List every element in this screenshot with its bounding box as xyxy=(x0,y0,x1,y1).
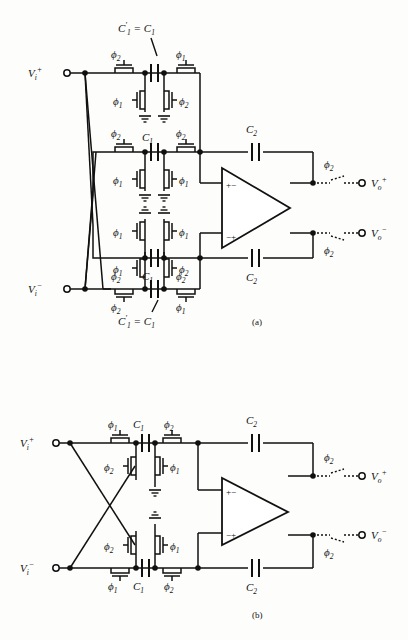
opamp-b[interactable]: +− −+ xyxy=(198,443,288,568)
label-phi1-shunt-right-s3a: ϕ1 xyxy=(179,226,188,241)
label-phi2-bot-right-sb2: ϕ2 xyxy=(164,580,174,595)
vi-plus-terminal-b[interactable] xyxy=(53,440,73,446)
label-phi2-top-left-s1a: ϕ2 xyxy=(111,48,121,63)
ground-right-s1a xyxy=(158,116,170,122)
label-phi2-top-left-s2a: ϕ2 xyxy=(111,127,121,142)
label-phi2-output-bottom-a: ϕ2 xyxy=(324,244,334,259)
ground-right-s3a xyxy=(158,207,170,213)
input-crosswires-b xyxy=(70,443,135,568)
label-phi2-output-top-b: ϕ2 xyxy=(324,451,334,466)
section-3-a: ϕ1 ϕ1 ϕ2 ϕ2 C1 xyxy=(111,0,235,285)
label-c2-top-a: C2 xyxy=(246,123,257,138)
opamp-a-input-bottom-label: −+ xyxy=(226,232,236,242)
vi-plus-label-a: Vi+ xyxy=(28,65,42,82)
annotation-c1prime-top-text-a: C′1 = C1 xyxy=(118,21,155,37)
label-c2-bottom-b: C2 xyxy=(246,581,257,596)
annotation-c1prime-bottom-a: C′1 = C1 xyxy=(118,300,158,330)
vi-minus-label-b: Vi− xyxy=(20,560,34,577)
label-phi1-shunt-left-s1a: ϕ1 xyxy=(113,95,122,110)
label-phi1-shunt-left-s2a: ϕ1 xyxy=(113,174,122,189)
output-vo-plus-b[interactable]: ϕ2 Vo+ xyxy=(313,451,387,485)
vi-plus-terminal-a[interactable] xyxy=(64,70,88,76)
switch-phi1-shunt-right-sb1[interactable] xyxy=(155,457,168,475)
vi-minus-terminal-b[interactable] xyxy=(53,565,73,571)
ground-left-s3a xyxy=(139,207,151,213)
switch-phi1-shunt-right-sb2[interactable] xyxy=(155,536,168,554)
feedback-c2-top-a: C2 xyxy=(235,123,316,186)
label-phi1-top-right-s1a: ϕ1 xyxy=(176,48,185,63)
output-vo-plus-a[interactable]: ϕ2 Vo+ xyxy=(313,158,387,192)
label-phi2-shunt-left-sb1: ϕ2 xyxy=(104,461,114,476)
figure-page: Vi+ Vi− xyxy=(0,0,408,640)
label-phi1-shunt-left-s3a: ϕ1 xyxy=(113,226,122,241)
opamp-a[interactable]: +− −+ xyxy=(200,152,290,258)
vo-minus-label-a: Vo− xyxy=(371,225,387,242)
switch-phi2-shunt-right-s1a[interactable] xyxy=(164,91,177,109)
vi-plus-label-b: Vi+ xyxy=(20,435,34,452)
switch-phi2-top-right-s2a[interactable] xyxy=(177,139,195,152)
label-phi2-output-top-a: ϕ2 xyxy=(324,158,334,173)
feedback-c2-bottom-b: C2 xyxy=(198,532,316,596)
switch-phi1-shunt-left-s3a[interactable] xyxy=(132,222,145,240)
output-vo-minus-b[interactable]: ϕ2 Vo− xyxy=(313,527,387,561)
circuit-b: Vi+ Vi− xyxy=(20,414,387,620)
label-c1-top-b: C1 xyxy=(133,418,144,433)
section-top-b: ϕ1 ϕ2 C1 ϕ2 ϕ1 xyxy=(104,418,201,496)
caption-b: (b) xyxy=(252,610,263,620)
section-bottom-b: ϕ1 ϕ2 C1 ϕ2 ϕ1 xyxy=(104,512,201,595)
label-phi1-shunt-right-sb2: ϕ1 xyxy=(170,540,179,555)
opamp-b-input-top-label: +− xyxy=(226,487,236,497)
label-c1-s2a: C1 xyxy=(142,131,153,146)
section-1-top-a: ϕ2 ϕ1 ϕ1 ϕ2 xyxy=(111,48,200,152)
label-phi1-bot-left-sb2: ϕ1 xyxy=(108,580,117,595)
circuit-figure: Vi+ Vi− xyxy=(0,0,408,640)
section-2-a: ϕ2 ϕ2 C1 ϕ1 ϕ1 xyxy=(111,127,235,201)
switch-phi2-shunt-left-sb1[interactable] xyxy=(123,457,136,475)
ground-left-s2a xyxy=(139,195,151,201)
switch-phi2-shunt-left-sb2[interactable] xyxy=(123,536,136,554)
label-c2-top-b: C2 xyxy=(246,414,257,429)
switch-phi1-shunt-right-s3a[interactable] xyxy=(164,222,177,240)
ground-right-s2a xyxy=(158,195,170,201)
annotation-c1prime-top-a: C′1 = C1 xyxy=(118,21,157,56)
label-phi1-shunt-right-s2a: ϕ1 xyxy=(179,174,188,189)
label-phi2-top-right-sb1: ϕ2 xyxy=(164,418,174,433)
feedback-c2-bottom-a: C2 xyxy=(235,230,316,286)
vo-minus-label-b: Vo− xyxy=(371,527,387,544)
label-phi2-output-bottom-b: ϕ2 xyxy=(324,546,334,561)
ground-left-s1a xyxy=(139,116,151,122)
opamp-b-input-bottom-label: −+ xyxy=(226,530,236,540)
label-phi1-bot-right-s4a: ϕ1 xyxy=(176,301,185,316)
output-vo-minus-a[interactable]: ϕ2 Vo− xyxy=(313,225,387,259)
feedback-c2-top-b: C2 xyxy=(198,414,316,479)
opamp-a-input-top-label: +− xyxy=(226,180,236,190)
vi-minus-terminal-a[interactable] xyxy=(64,286,88,292)
vo-plus-label-b: Vo+ xyxy=(371,468,387,485)
label-c2-bottom-a: C2 xyxy=(246,271,257,286)
circuit-a: Vi+ Vi− xyxy=(28,0,387,330)
vo-plus-label-a: Vo+ xyxy=(371,175,387,192)
label-c1-bottom-b: C1 xyxy=(133,580,144,595)
label-phi2-shunt-left-sb2: ϕ2 xyxy=(104,540,114,555)
caption-a: (a) xyxy=(252,317,262,327)
label-phi1-top-left-sb1: ϕ1 xyxy=(108,418,117,433)
label-phi1-shunt-right-sb1: ϕ1 xyxy=(170,461,179,476)
switch-phi1-top-right-s1a[interactable] xyxy=(177,60,195,73)
ground-right-sb1 xyxy=(149,490,161,496)
annotation-c1prime-bottom-text-a: C′1 = C1 xyxy=(118,314,155,330)
label-phi2-shunt-right-s1a: ϕ2 xyxy=(179,95,189,110)
vi-minus-label-a: Vi− xyxy=(28,281,42,298)
label-phi2-top-right-s2a: ϕ2 xyxy=(176,127,186,142)
switch-phi1-shunt-left-s1a[interactable] xyxy=(132,91,145,109)
switch-phi1-shunt-right-s2a[interactable] xyxy=(164,170,177,188)
input-crosswires-a xyxy=(85,73,111,289)
label-phi2-bot-left-s4a: ϕ2 xyxy=(111,301,121,316)
switch-phi2-bot-left-s4a[interactable] xyxy=(115,289,133,302)
switch-phi1-shunt-left-s2a[interactable] xyxy=(132,170,145,188)
ground-right-sb2 xyxy=(149,512,161,518)
